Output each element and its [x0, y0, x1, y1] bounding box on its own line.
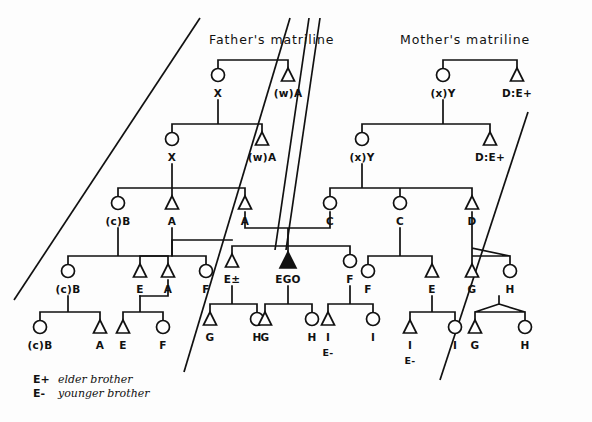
legend-text-0: elder brother: [58, 373, 133, 386]
label-fm-g4-male-e: E: [136, 283, 143, 295]
label-mm-g5-female-h: H: [520, 339, 529, 351]
label-kid-ego-male-g: G: [261, 331, 270, 343]
label-mm-g4-female-h: H: [505, 283, 514, 295]
legend-key-1: E-: [33, 387, 45, 400]
node-fm-g1-male: [282, 68, 295, 81]
label-fm-g1-male: (w)A: [274, 87, 303, 99]
label-kid-f-female-i: I: [371, 331, 375, 343]
edge-mm-g4-g-descent: [475, 296, 525, 320]
label-fm-g3-male-a1: A: [168, 215, 177, 227]
fathers-matriline-title: Father's matriline: [209, 32, 334, 47]
fathers-matriline-group: X (w)A X (w)A (c)B A A (c)B A E F: [27, 60, 302, 351]
label-fm-g3-female-cb: (c)B: [105, 215, 130, 227]
node-mm-g5-male-g: [469, 320, 482, 333]
label-fm-g4-female-f: F: [202, 283, 209, 295]
legend-text-1: younger brother: [57, 387, 150, 400]
node-fm-g5-female-f: [157, 321, 170, 334]
label-mm-g4-female-f: F: [364, 283, 371, 295]
edge-ego-sibling-eplusminus-descent: [210, 286, 257, 312]
edge-mm-g2-descent: [330, 164, 472, 196]
node-fm-g5-male-e: [117, 320, 130, 333]
node-fm-g5-male-a: [94, 320, 107, 333]
label-kid-ego-female-h: H: [307, 331, 316, 343]
edge-mm-g4-e-descent: [410, 296, 455, 320]
label-mm-g5-male-i: I: [408, 339, 412, 351]
edge-fm-g1-descent: [172, 100, 262, 132]
label-fm-g4-female-cb: (c)B: [55, 283, 80, 295]
label-kid-f-male-i: I: [326, 331, 330, 343]
node-mm-g1-female: [437, 69, 450, 82]
label-mm-g2-female: (x)Y: [349, 151, 374, 163]
edge-fm-g2-descent: [118, 164, 245, 196]
edge-mm-g1-bar: [443, 60, 517, 69]
mothers-matriline-group: (x)Y D:E+ (x)Y D:E+ C C D F E G H: [324, 60, 533, 366]
node-kid-ea-male-g: [204, 312, 217, 325]
edge-fm-g4-cb-descent: [40, 296, 100, 320]
mothers-matriline-title: Mother's matriline: [400, 32, 530, 47]
label-fm-g5-female-f: F: [159, 339, 166, 351]
node-fm-g3-male-a1: [166, 196, 179, 209]
node-fm-g1-female: [212, 69, 225, 82]
label-mm-g1-male: D:E+: [502, 87, 532, 99]
node-mm-g3-female-c: [394, 197, 407, 210]
node-mm-g4-female-h: [504, 265, 517, 278]
label-mm-g1-female: (x)Y: [430, 87, 455, 99]
node-fm-g2-male: [256, 132, 269, 145]
label-fm-g5-male-e: E: [119, 339, 126, 351]
diagram-titles: Father's matriline Mother's matriline: [209, 32, 530, 47]
node-mm-g4-female-f: [362, 265, 375, 278]
divider-line-mid-a: [184, 18, 290, 372]
label-kid-f-male-i-sub: E-: [323, 347, 334, 358]
node-mm-g3-male-d: [466, 196, 479, 209]
node-mm-g5-male-i: [404, 320, 417, 333]
node-kid-f-female-i: [367, 313, 380, 326]
edge-mm-g3-c-descent: [368, 228, 432, 264]
node-fm-g2-female: [166, 133, 179, 146]
node-mm-g5-female-i: [449, 321, 462, 334]
label-fm-g1-female: X: [214, 87, 222, 99]
edge-fm-g3-a1-descent: [140, 228, 206, 264]
node-fm-g3-female-cb: [112, 197, 125, 210]
divider-line-mid-c: [286, 18, 320, 250]
node-mm-g1-male: [511, 68, 524, 81]
edge-mm-g1-descent: [362, 100, 490, 132]
node-fm-g3-male-a2: [239, 196, 252, 209]
legend-group: E+ elder brother E- younger brother: [33, 373, 150, 400]
edge-mm-g3-d-descent: [472, 212, 510, 264]
label-fm-g2-female: X: [168, 151, 176, 163]
node-mm-g4-male-e: [426, 264, 439, 277]
label-ego-sibling-eplusminus: E±: [224, 273, 241, 285]
label-mm-g5-male-g: G: [471, 339, 480, 351]
edge-ego-descent: [265, 286, 312, 312]
label-mm-g3-female-c: C: [396, 215, 404, 227]
edge-fm-g4-a-descent: [123, 296, 163, 320]
node-ego-sibling-female-f: [344, 255, 357, 268]
label-mm-g5-female-i: I: [453, 339, 457, 351]
kinship-diagram-svg: Father's matriline Mother's matriline X …: [0, 0, 592, 422]
label-ego-sibling-f: F: [346, 273, 353, 285]
label-mm-g4-male-e: E: [428, 283, 435, 295]
father-line-crosslinks: [140, 240, 232, 296]
label-fm-g5-female-cb: (c)B: [27, 339, 52, 351]
label-mm-g2-male: D:E+: [475, 151, 505, 163]
node-fm-g4-male-e: [134, 264, 147, 277]
label-ego: EGO: [275, 273, 301, 285]
label-mm-g5-male-i-sub: E-: [405, 355, 416, 366]
node-fm-g4-female-cb: [62, 265, 75, 278]
node-mm-g5-female-h: [519, 321, 532, 334]
node-ego-sibling-male-eplusminus: [226, 254, 239, 267]
node-fm-g4-female-f: [200, 265, 213, 278]
ego-sibling-group: E± EGO F G H G H I E- I: [204, 212, 380, 358]
node-fm-g5-female-cb: [34, 321, 47, 334]
node-mm-g2-female: [356, 133, 369, 146]
label-fm-g2-male: (w)A: [248, 151, 277, 163]
edge-fm-g3-cb-descent: [68, 228, 168, 264]
legend-key-0: E+: [33, 373, 50, 386]
node-mm-g2-male: [484, 132, 497, 145]
kinship-diagram-canvas: Father's matriline Mother's matriline X …: [0, 0, 592, 422]
node-ego: [280, 252, 296, 268]
node-kid-ego-female-h: [306, 313, 319, 326]
node-mm-g3-female-c-ego-mother: [324, 197, 337, 210]
label-fm-g5-male-a: A: [96, 339, 105, 351]
label-mm-g4-male-g: G: [468, 283, 477, 295]
